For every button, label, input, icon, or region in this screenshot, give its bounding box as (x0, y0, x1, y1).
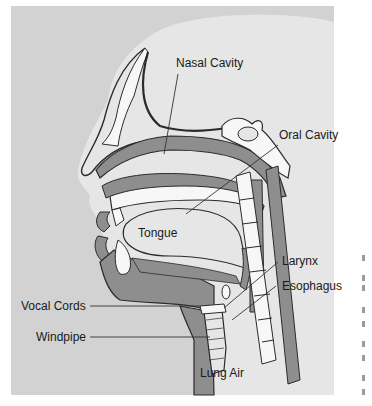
vocal-tract-diagram: Nasal Cavity Oral Cavity Tongue Larynx E… (0, 0, 372, 406)
label-lung-air: Lung Air (200, 366, 244, 380)
page-edge-marks (362, 255, 368, 395)
larynx-cartilage (200, 304, 226, 314)
label-tongue: Tongue (138, 226, 177, 240)
hyoid-bone (222, 285, 230, 299)
label-nasal-cavity: Nasal Cavity (176, 56, 243, 70)
label-oral-cavity: Oral Cavity (279, 128, 338, 142)
label-windpipe: Windpipe (36, 330, 86, 344)
label-esophagus: Esophagus (282, 279, 342, 293)
label-larynx: Larynx (282, 254, 318, 268)
sinus (238, 127, 258, 141)
label-vocal-cords: Vocal Cords (21, 299, 86, 313)
